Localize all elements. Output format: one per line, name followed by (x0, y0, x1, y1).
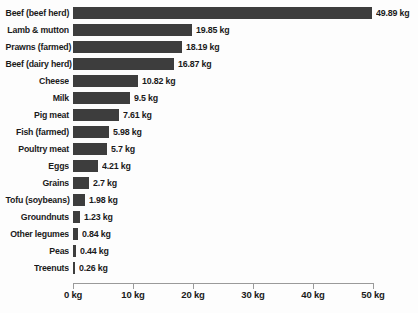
bar (73, 211, 80, 223)
bar-row: Fish (farmed)5.98 kg (0, 124, 418, 141)
bar-track: 18.19 kg (73, 41, 418, 53)
x-axis-tick-label: 20 kg (181, 289, 204, 300)
bar-value-label: 1.98 kg (89, 193, 118, 207)
x-axis-tick-label: 40 kg (301, 289, 324, 300)
bar-row: Groundnuts1.23 kg (0, 209, 418, 226)
x-axis-tick-label: 0 kg (64, 289, 82, 300)
bar-row: Grains2.7 kg (0, 175, 418, 192)
category-label: Lamb & mutton (6, 22, 69, 39)
bar (73, 228, 78, 240)
bar (73, 109, 119, 121)
bar-track: 49.89 kg (73, 7, 418, 19)
bar-track: 0.26 kg (73, 262, 418, 274)
category-label: Cheese (6, 73, 69, 90)
bar-track: 19.85 kg (73, 24, 418, 36)
category-label: Eggs (6, 158, 69, 175)
x-axis-line (73, 283, 373, 284)
bar-row: Poultry meat5.7 kg (0, 141, 418, 158)
category-label: Peas (6, 243, 69, 260)
bar-row: Beef (dairy herd)16.87 kg (0, 56, 418, 73)
bar-row: Peas0.44 kg (0, 243, 418, 260)
category-label: Milk (6, 90, 69, 107)
bar (73, 160, 98, 172)
category-label: Beef (beef herd) (6, 5, 69, 22)
bar (73, 177, 89, 189)
bar-track: 0.44 kg (73, 245, 418, 257)
bar (73, 7, 372, 19)
bar (73, 58, 174, 70)
category-label: Grains (6, 175, 69, 192)
category-label: Other legumes (6, 226, 69, 243)
category-label: Treenuts (6, 260, 69, 277)
bar-track: 10.82 kg (73, 75, 418, 87)
category-label: Fish (farmed) (6, 124, 69, 141)
bar-row: Eggs4.21 kg (0, 158, 418, 175)
bar-track: 9.5 kg (73, 92, 418, 104)
bar-track: 7.61 kg (73, 109, 418, 121)
bar-row: Cheese10.82 kg (0, 73, 418, 90)
bar-value-label: 7.61 kg (123, 108, 152, 122)
bar-track: 0.84 kg (73, 228, 418, 240)
bar-value-label: 18.19 kg (186, 40, 219, 54)
category-label: Beef (dairy herd) (6, 56, 69, 73)
bar (73, 41, 182, 53)
bar-value-label: 1.23 kg (84, 210, 113, 224)
category-label: Tofu (soybeans) (6, 192, 69, 209)
bar-value-label: 16.87 kg (178, 57, 211, 71)
bar (73, 126, 109, 138)
bar-value-label: 49.89 kg (376, 6, 409, 20)
bar (73, 262, 75, 274)
chart-rows: Beef (beef herd)49.89 kgLamb & mutton19.… (0, 5, 418, 277)
bar-track: 4.21 kg (73, 160, 418, 172)
bar (73, 143, 107, 155)
bar-track: 2.7 kg (73, 177, 418, 189)
category-label: Poultry meat (6, 141, 69, 158)
x-axis-tick-label: 30 kg (241, 289, 264, 300)
bar-value-label: 4.21 kg (102, 159, 131, 173)
bar-row: Tofu (soybeans)1.98 kg (0, 192, 418, 209)
bar (73, 75, 138, 87)
bar-track: 1.98 kg (73, 194, 418, 206)
bar-row: Pig meat7.61 kg (0, 107, 418, 124)
bar-track: 1.23 kg (73, 211, 418, 223)
bar-track: 5.7 kg (73, 143, 418, 155)
category-label: Pig meat (6, 107, 69, 124)
bar-row: Milk9.5 kg (0, 90, 418, 107)
bar (73, 24, 192, 36)
bar (73, 194, 85, 206)
category-label: Groundnuts (6, 209, 69, 226)
bar-value-label: 0.44 kg (80, 244, 109, 258)
bar-value-label: 5.7 kg (111, 142, 135, 156)
bar-row: Other legumes0.84 kg (0, 226, 418, 243)
bar-value-label: 10.82 kg (142, 74, 175, 88)
bar-value-label: 2.7 kg (93, 176, 117, 190)
bar-row: Prawns (farmed)18.19 kg (0, 39, 418, 56)
bar-track: 5.98 kg (73, 126, 418, 138)
bar-value-label: 0.84 kg (82, 227, 111, 241)
category-label: Prawns (farmed) (6, 39, 69, 56)
bar (73, 245, 76, 257)
bar-value-label: 0.26 kg (79, 261, 108, 275)
x-axis-tick-label: 10 kg (121, 289, 144, 300)
bar (73, 92, 130, 104)
bar-chart: Beef (beef herd)49.89 kgLamb & mutton19.… (0, 0, 418, 313)
x-axis-tick-label: 50 kg (361, 289, 384, 300)
bar-row: Treenuts0.26 kg (0, 260, 418, 277)
bar-track: 16.87 kg (73, 58, 418, 70)
bar-value-label: 5.98 kg (113, 125, 142, 139)
bar-row: Beef (beef herd)49.89 kg (0, 5, 418, 22)
bar-row: Lamb & mutton19.85 kg (0, 22, 418, 39)
bar-value-label: 19.85 kg (196, 23, 229, 37)
bar-value-label: 9.5 kg (134, 91, 158, 105)
